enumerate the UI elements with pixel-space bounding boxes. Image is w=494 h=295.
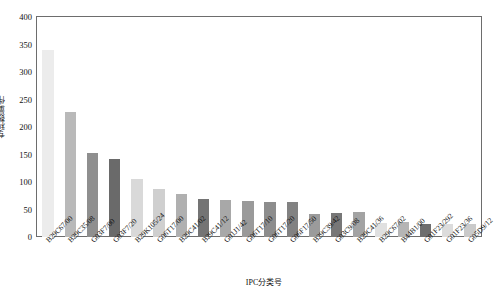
y-tick-label: 150 xyxy=(19,150,32,160)
y-tick-label: 300 xyxy=(19,67,32,77)
x-axis-title: IPC分类号 xyxy=(0,276,488,287)
bar xyxy=(42,50,54,237)
y-tick-label: 250 xyxy=(19,95,32,105)
y-tick-label: 350 xyxy=(19,40,32,50)
y-axis-ticks: 050100150200250300350400 xyxy=(0,0,36,295)
y-tick-label: 50 xyxy=(24,205,33,215)
y-tick-label: 0 xyxy=(28,232,32,242)
x-axis-title-text: IPC分类号 xyxy=(246,278,282,287)
y-tick-label: 200 xyxy=(19,122,32,132)
y-tick-label: 400 xyxy=(19,12,32,22)
bars-layer xyxy=(37,17,481,237)
y-tick-label: 100 xyxy=(19,177,32,187)
